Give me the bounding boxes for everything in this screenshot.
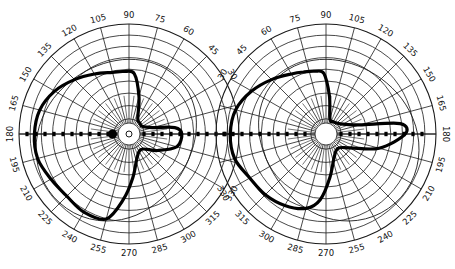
- angle-label: 75: [153, 12, 166, 24]
- tick-marker: [196, 132, 199, 136]
- left-field-chart: 3045607590105120135150165180195210225240…: [5, 10, 241, 258]
- angle-label: 165: [434, 94, 448, 112]
- angle-label: 105: [348, 12, 366, 26]
- tick-marker: [151, 132, 154, 136]
- tick-marker: [222, 132, 225, 136]
- angle-label: 165: [7, 94, 21, 112]
- angle-label: 195: [8, 156, 22, 174]
- angle-label: 150: [421, 65, 438, 84]
- angle-label: 90: [321, 10, 332, 20]
- perimetry-figure: 3045607590105120135150165180195210225240…: [0, 0, 455, 269]
- angle-label: 180: [5, 126, 15, 142]
- tick-marker: [393, 132, 396, 136]
- tick-marker: [375, 132, 378, 136]
- angle-label: 255: [348, 241, 366, 255]
- tick-marker: [205, 132, 208, 136]
- angle-label: 195: [433, 156, 447, 174]
- angle-label: 285: [151, 241, 169, 255]
- angle-label: 60: [182, 23, 196, 37]
- tick-marker: [348, 132, 351, 136]
- tick-marker: [258, 132, 261, 136]
- tick-marker: [61, 132, 64, 136]
- angle-label: 270: [121, 248, 137, 258]
- angle-label: 75: [289, 12, 302, 24]
- tick-marker: [169, 132, 172, 136]
- tick-marker: [160, 132, 163, 136]
- tick-marker: [240, 132, 243, 136]
- blind-spot: [108, 130, 117, 139]
- tick-marker: [285, 132, 288, 136]
- angle-label: 270: [318, 248, 334, 258]
- angle-label: 60: [259, 23, 273, 37]
- tick-marker: [276, 132, 279, 136]
- tick-marker: [52, 132, 55, 136]
- angle-label: 120: [60, 22, 79, 39]
- tick-marker: [384, 132, 387, 136]
- angle-label: 120: [376, 22, 395, 39]
- angle-label: 45: [234, 42, 249, 57]
- tick-marker: [411, 132, 414, 136]
- tick-marker: [79, 132, 82, 136]
- angle-label: 285: [286, 241, 304, 255]
- field-outline: [34, 71, 182, 219]
- right-field-chart: 3045607590105120135150165180195210225240…: [215, 10, 451, 258]
- angle-label: 105: [89, 12, 107, 26]
- tick-marker: [303, 132, 306, 136]
- tick-marker: [267, 132, 270, 136]
- tick-marker: [294, 132, 297, 136]
- tick-marker: [357, 132, 360, 136]
- fixation-disk: [118, 123, 140, 145]
- tick-marker: [339, 132, 342, 136]
- tick-marker: [43, 132, 46, 136]
- tick-marker: [25, 132, 28, 136]
- fixation-disk: [315, 123, 337, 145]
- angle-label: 255: [89, 241, 107, 255]
- tick-marker: [142, 132, 145, 136]
- angle-label: 180: [441, 126, 451, 142]
- angle-label: 45: [206, 42, 221, 57]
- tick-marker: [88, 132, 91, 136]
- tick-marker: [70, 132, 73, 136]
- tick-marker: [249, 132, 252, 136]
- tick-marker: [420, 132, 423, 136]
- angle-label: 90: [124, 10, 135, 20]
- tick-marker: [366, 132, 369, 136]
- visual-field-svg: 3045607590105120135150165180195210225240…: [0, 0, 455, 269]
- tick-marker: [97, 132, 100, 136]
- tick-marker: [187, 132, 190, 136]
- angle-label: 150: [17, 65, 34, 84]
